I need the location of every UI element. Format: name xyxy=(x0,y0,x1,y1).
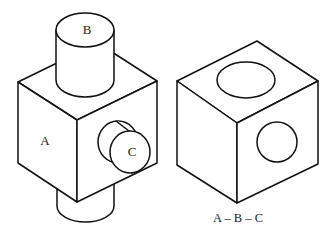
right-cube xyxy=(177,41,318,203)
right-object: A – B – C xyxy=(177,41,318,225)
label-b: B xyxy=(83,22,92,37)
left-object: A B C xyxy=(18,13,157,222)
caption: A – B – C xyxy=(213,211,263,225)
label-a: A xyxy=(40,133,50,148)
diagram-canvas: A B C A – B – C xyxy=(0,0,334,235)
label-c: C xyxy=(128,144,137,159)
